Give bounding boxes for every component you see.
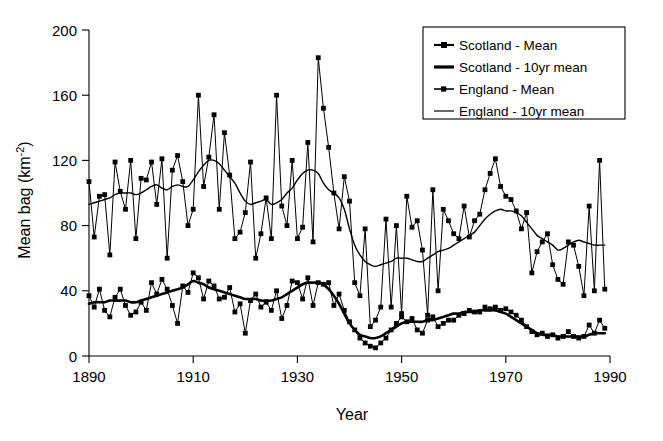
- data-point-marker: [514, 209, 519, 214]
- data-point-marker: [358, 293, 363, 298]
- data-point-marker: [457, 236, 462, 241]
- data-point-marker: [425, 313, 430, 318]
- data-point-marker: [217, 297, 222, 302]
- data-point-marker: [503, 306, 508, 311]
- data-point-marker: [290, 158, 295, 163]
- data-point-marker: [170, 168, 175, 173]
- data-point-marker: [217, 207, 222, 212]
- data-point-marker: [493, 156, 498, 161]
- data-point-marker: [519, 226, 524, 231]
- data-point-marker: [415, 328, 420, 333]
- y-tick-label: 0: [69, 348, 77, 365]
- chart-svg: 20016012080400 189019101930195019701990 …: [0, 0, 663, 441]
- data-point-marker: [118, 287, 123, 292]
- data-point-marker: [483, 187, 488, 192]
- data-point-marker: [363, 341, 368, 346]
- data-point-marker: [206, 279, 211, 284]
- x-tick-label: 1930: [281, 368, 314, 385]
- data-point-marker: [248, 298, 253, 303]
- data-point-marker: [582, 293, 587, 298]
- data-point-marker: [566, 329, 571, 334]
- data-point-marker: [436, 288, 441, 293]
- data-point-marker: [232, 236, 237, 241]
- data-point-marker: [561, 334, 566, 339]
- data-point-marker: [363, 226, 368, 231]
- data-point-marker: [123, 303, 128, 308]
- data-point-marker: [519, 318, 524, 323]
- y-axis-title-main: Mean bag (km: [16, 156, 33, 258]
- data-point-marker: [238, 230, 243, 235]
- data-point-marker: [545, 334, 550, 339]
- data-point-marker: [399, 314, 404, 319]
- data-point-marker: [97, 194, 102, 199]
- data-point-marker: [337, 226, 342, 231]
- data-point-marker: [316, 280, 321, 285]
- data-point-marker: [602, 287, 607, 292]
- data-point-marker: [420, 248, 425, 253]
- y-axis-ticks: 20016012080400: [52, 22, 89, 365]
- y-tick-label: 80: [60, 217, 77, 234]
- data-point-marker: [97, 287, 102, 292]
- data-point-marker: [259, 305, 264, 310]
- data-point-marker: [206, 155, 211, 160]
- data-point-marker: [467, 235, 472, 240]
- data-point-marker: [222, 130, 227, 135]
- data-point-marker: [602, 326, 607, 331]
- data-point-marker: [154, 202, 159, 207]
- x-tick-label: 1890: [72, 368, 105, 385]
- data-point-marker: [342, 174, 347, 179]
- data-point-marker: [285, 303, 290, 308]
- data-point-marker: [404, 319, 409, 324]
- data-point-marker: [545, 231, 550, 236]
- data-point-marker: [144, 308, 149, 313]
- data-point-marker: [87, 293, 92, 298]
- data-point-marker: [300, 297, 305, 302]
- data-point-marker: [342, 308, 347, 313]
- data-point-marker: [394, 321, 399, 326]
- data-point-marker: [352, 328, 357, 333]
- data-point-marker: [295, 236, 300, 241]
- data-point-marker: [582, 334, 587, 339]
- data-point-marker: [587, 204, 592, 209]
- data-point-marker: [415, 218, 420, 223]
- data-point-marker: [493, 305, 498, 310]
- data-point-marker: [139, 300, 144, 305]
- data-point-marker: [430, 314, 435, 319]
- data-point-marker: [201, 297, 206, 302]
- x-tick-label: 1950: [385, 368, 418, 385]
- data-point-marker: [253, 256, 258, 261]
- y-axis-title-tail: ): [16, 141, 33, 146]
- data-point-marker: [154, 292, 159, 297]
- data-point-marker: [488, 306, 493, 311]
- data-point-marker: [316, 55, 321, 60]
- x-axis-ticks: 189019101930195019701990: [72, 356, 626, 385]
- data-point-marker: [529, 329, 534, 334]
- data-point-marker: [186, 223, 191, 228]
- y-axis-title: Mean bag (km-2): [14, 141, 33, 258]
- data-point-marker: [144, 178, 149, 183]
- data-point-marker: [87, 179, 92, 184]
- legend-label: Scotland - Mean: [459, 38, 557, 53]
- data-point-marker: [227, 285, 232, 290]
- data-point-marker: [477, 310, 482, 315]
- data-point-marker: [279, 204, 284, 209]
- y-tick-label: 40: [60, 282, 77, 299]
- data-point-marker: [389, 305, 394, 310]
- data-point-marker: [529, 270, 534, 275]
- data-point-marker: [477, 212, 482, 217]
- legend-swatch-marker: [441, 42, 447, 48]
- data-point-marker: [139, 176, 144, 181]
- data-point-marker: [191, 270, 196, 275]
- data-point-marker: [592, 331, 597, 336]
- legend: Scotland - MeanScotland - 10yr meanEngla…: [423, 27, 625, 119]
- data-point-marker: [113, 160, 118, 165]
- data-point-marker: [274, 93, 279, 98]
- data-point-marker: [175, 321, 180, 326]
- data-point-marker: [462, 204, 467, 209]
- data-point-marker: [269, 236, 274, 241]
- y-tick-label: 160: [52, 87, 77, 104]
- data-point-marker: [238, 301, 243, 306]
- data-point-marker: [180, 284, 185, 289]
- data-point-marker: [503, 194, 508, 199]
- data-point-marker: [352, 280, 357, 285]
